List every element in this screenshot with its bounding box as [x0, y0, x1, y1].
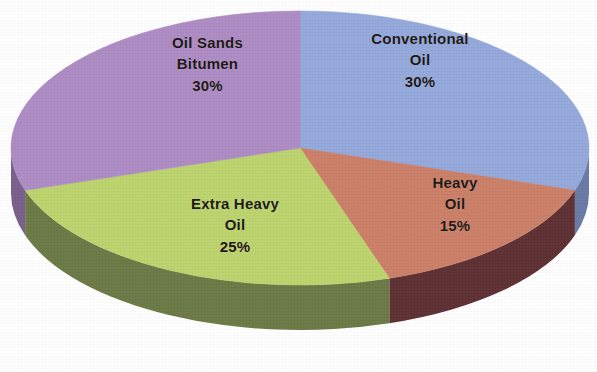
pie-top-faces — [11, 11, 589, 285]
pie-chart-canvas — [0, 0, 597, 372]
pie-chart: Conventional Oil 30% Oil Sands Bitumen 3… — [0, 0, 597, 372]
